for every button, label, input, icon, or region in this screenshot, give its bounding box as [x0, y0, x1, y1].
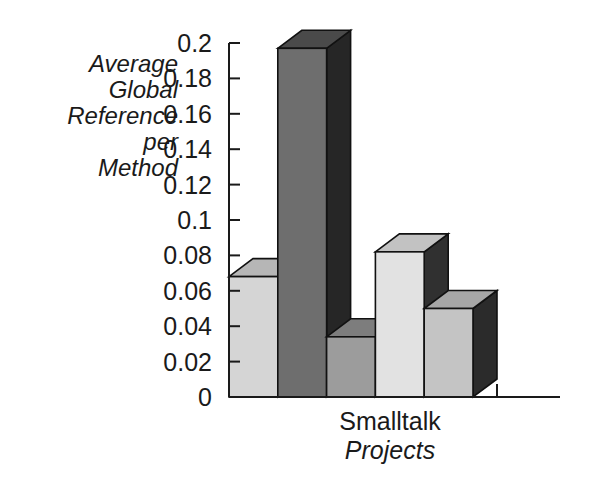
- bar-4-front-face: [375, 252, 424, 397]
- bars-layer: [229, 30, 497, 397]
- y-tick-label-4: 0.08: [163, 241, 212, 269]
- bar-3-front-face: [327, 337, 376, 397]
- figure-container: 00.020.040.060.080.10.120.140.160.180.2 …: [0, 0, 597, 480]
- bar-chart: 00.020.040.060.080.10.120.140.160.180.2 …: [0, 0, 597, 480]
- x-axis-title-line-0: Smalltalk: [339, 407, 441, 435]
- bar-5-front-face: [424, 309, 473, 398]
- bar-1-front-face: [229, 277, 278, 397]
- x-axis-title-line-1: Projects: [345, 436, 435, 464]
- bar-5: [424, 291, 497, 398]
- bar-2-front-face: [278, 48, 327, 397]
- y-axis-title-line-0: Average: [87, 50, 178, 77]
- y-tick-label-3: 0.06: [163, 277, 212, 305]
- y-tick-label-0: 0: [198, 383, 212, 411]
- y-axis-title-line-3: per: [142, 128, 179, 155]
- y-tick-label-10: 0.2: [177, 29, 212, 57]
- y-tick-label-5: 0.1: [177, 206, 212, 234]
- y-axis-title-line-1: Global: [109, 76, 179, 103]
- y-axis-title-line-2: Reference: [67, 102, 178, 129]
- y-axis-title-line-4: Method: [98, 154, 179, 181]
- y-tick-label-2: 0.04: [163, 312, 212, 340]
- x-axis-title: SmalltalkProjects: [339, 407, 441, 464]
- y-axis-title: AverageGlobalReferenceperMethod: [67, 50, 179, 181]
- y-tick-label-1: 0.02: [163, 348, 212, 376]
